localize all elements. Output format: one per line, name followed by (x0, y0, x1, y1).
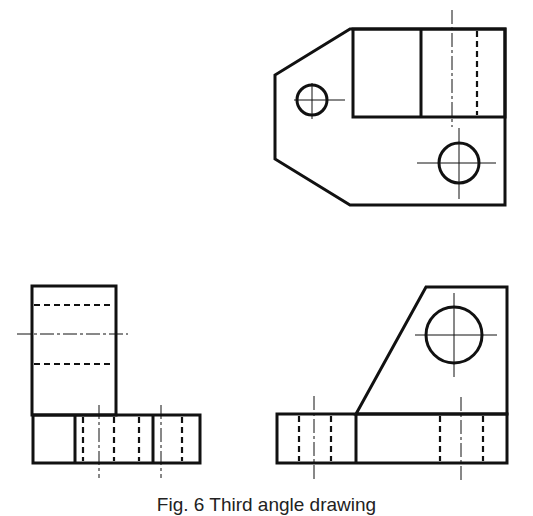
front-view (17, 286, 200, 478)
figure-caption: Fig. 6 Third angle drawing (0, 494, 533, 516)
side-view (277, 287, 507, 481)
top-view-raised-block (353, 29, 505, 117)
front-view-base (33, 415, 200, 463)
side-view-base (277, 414, 507, 463)
top-view (275, 10, 505, 205)
